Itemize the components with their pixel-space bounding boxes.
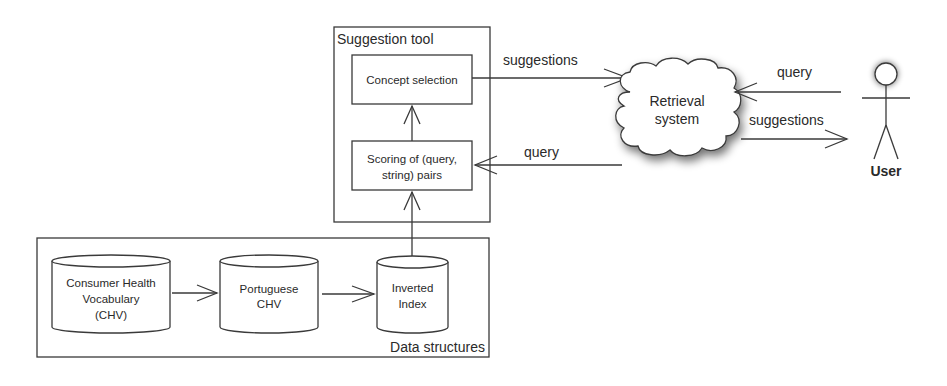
arrow-chv-to-portuguese bbox=[172, 285, 217, 301]
chv-label-line2: Vocabulary bbox=[83, 293, 140, 305]
inverted-index-label-line1: Inverted bbox=[392, 282, 434, 294]
retrieval-label-line1: Retrieval bbox=[649, 93, 704, 109]
retrieval-system-cloud: Retrieval system bbox=[616, 58, 741, 156]
scoring-label-line2: string) pairs bbox=[382, 169, 442, 181]
scoring-box: Scoring of (query, string) pairs bbox=[352, 141, 472, 190]
concept-selection-box: Concept selection bbox=[352, 55, 472, 104]
arrow-query-from-user: query bbox=[735, 64, 841, 101]
query-label-right: query bbox=[777, 64, 812, 80]
arrow-suggestions-to-user: suggestions bbox=[741, 112, 847, 148]
portuguese-chv-database: Portuguese CHV bbox=[220, 255, 318, 333]
chv-database: Consumer Health Vocabulary (CHV) bbox=[52, 255, 170, 333]
user-actor-icon: User bbox=[862, 63, 910, 179]
suggestions-label-left: suggestions bbox=[503, 52, 578, 68]
arrow-suggestions-to-retrieval: suggestions bbox=[472, 52, 628, 87]
portuguese-chv-label-line1: Portuguese bbox=[240, 283, 299, 295]
system-architecture-diagram: Suggestion tool Concept selection Scorin… bbox=[0, 0, 947, 386]
actor-head bbox=[875, 63, 897, 85]
arrow-portuguese-to-index bbox=[322, 286, 374, 302]
chv-label-line1: Consumer Health bbox=[66, 277, 155, 289]
suggestions-label-right: suggestions bbox=[749, 112, 824, 128]
portuguese-chv-label-line2: CHV bbox=[257, 298, 282, 310]
user-label: User bbox=[870, 163, 902, 179]
inverted-index-database: Inverted Index bbox=[377, 256, 448, 333]
query-label-left: query bbox=[524, 144, 559, 160]
scoring-label-line1: Scoring of (query, bbox=[367, 153, 457, 165]
retrieval-label-line2: system bbox=[655, 111, 699, 127]
inverted-index-label-line2: Index bbox=[398, 298, 426, 310]
suggestion-tool-label: Suggestion tool bbox=[337, 31, 434, 47]
arrow-query-to-scoring: query bbox=[475, 144, 622, 174]
concept-selection-label: Concept selection bbox=[366, 74, 457, 86]
chv-label-line3: (CHV) bbox=[95, 309, 127, 321]
data-structures-label: Data structures bbox=[390, 339, 485, 355]
